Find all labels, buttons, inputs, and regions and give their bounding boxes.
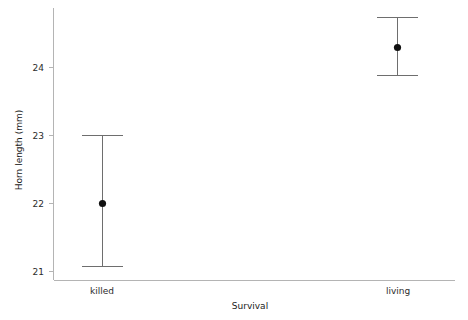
chart-figure: 21 22 23 24 killed living Survival Horn …	[0, 0, 468, 320]
y-tick-label-24: 24	[33, 63, 45, 73]
error-bar-chart: 21 22 23 24 killed living Survival Horn …	[0, 0, 468, 320]
y-tick-label-22: 22	[33, 199, 44, 209]
mean-marker-living	[394, 44, 401, 51]
x-tick-label-killed: killed	[90, 286, 114, 296]
y-axis-title: Horn length (mm)	[14, 110, 24, 191]
x-axis-title: Survival	[232, 301, 268, 311]
y-tick-label-21: 21	[33, 267, 44, 277]
y-tick-label-23: 23	[33, 131, 44, 141]
mean-marker-killed	[99, 200, 106, 207]
x-tick-label-living: living	[386, 286, 410, 296]
